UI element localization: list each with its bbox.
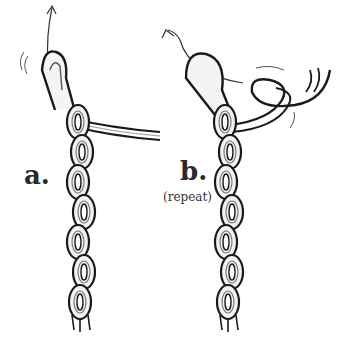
step-b-label: b. (180, 156, 207, 186)
repeat-note: (repeat) (163, 190, 212, 204)
step-a-label: a. (24, 160, 50, 190)
diagram-canvas (0, 0, 354, 342)
